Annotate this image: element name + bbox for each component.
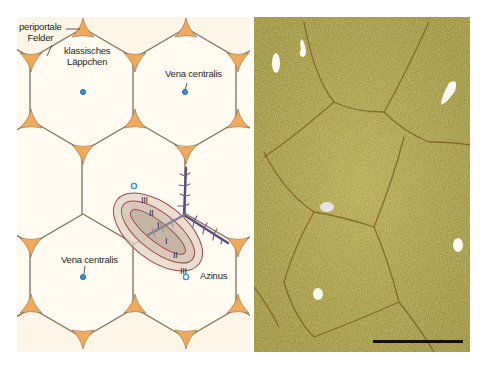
zone-label: I xyxy=(157,220,159,231)
label-line: periportale xyxy=(19,21,62,32)
central-vein-label-bottom: Vena centralis xyxy=(61,254,118,265)
classic-lobule-label: klassisches Läppchen xyxy=(64,45,110,67)
acinus-label: Azinus xyxy=(200,270,227,281)
periportal-fields-label: periportale Felder xyxy=(19,21,62,43)
label-line: klassisches xyxy=(64,45,110,56)
micrograph-panel xyxy=(254,17,470,352)
zone-label: II xyxy=(173,250,178,261)
zone-label: I xyxy=(165,236,167,247)
zone-label: III xyxy=(141,195,148,206)
zone-label: II xyxy=(149,208,154,219)
lobule-diagram-panel: periportale Felder klassisches Läppchen … xyxy=(17,17,250,352)
liver-micrograph xyxy=(254,17,470,352)
zone-label: III xyxy=(180,266,187,277)
central-vein-label-top: Vena centralis xyxy=(165,68,222,79)
label-line: Felder xyxy=(19,32,62,43)
scale-bar xyxy=(373,340,463,343)
label-line: Läppchen xyxy=(64,56,110,67)
